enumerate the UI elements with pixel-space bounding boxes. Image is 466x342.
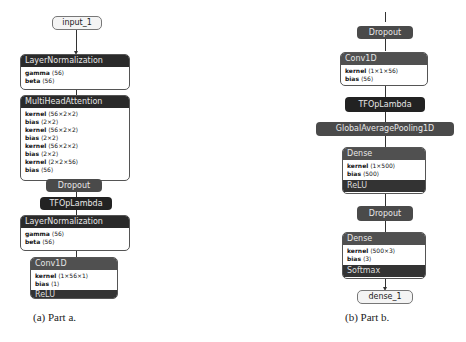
param-row: kernel ⟨56×2×2⟩ [25, 126, 125, 134]
param-row: kernel ⟨1×500⟩ [347, 162, 421, 170]
dense-node-2: Dense kernel ⟨500×3⟩ bias ⟨3⟩ Softmax [342, 232, 426, 279]
dense-node-1: Dense kernel ⟨1×500⟩ bias ⟨500⟩ ReLU [342, 147, 426, 194]
param-row: gamma ⟨56⟩ [25, 69, 125, 77]
layernorm-node-2: LayerNormalization gamma ⟨56⟩ beta ⟨56⟩ [20, 215, 130, 251]
edge [385, 136, 386, 147]
dropout-node-2: Dropout [357, 206, 413, 221]
param-row: kernel ⟨1×56×1⟩ [35, 272, 113, 280]
param-row: kernel ⟨56×2×2⟩ [25, 142, 125, 150]
tfoplambda-node: TFOpLambda [40, 197, 112, 210]
param-row: beta ⟨56⟩ [25, 77, 125, 85]
param-row: bias ⟨2×2⟩ [25, 118, 125, 126]
param-row: bias ⟨56⟩ [25, 166, 125, 174]
param-row: bias ⟨500⟩ [347, 170, 421, 178]
layernorm-node-1: LayerNormalization gamma ⟨56⟩ beta ⟨56⟩ [20, 54, 130, 90]
dropout-node: Dropout [46, 179, 102, 192]
edge [76, 30, 77, 52]
edge [385, 112, 386, 122]
activation-label: ReLU [343, 180, 425, 192]
edge [385, 86, 386, 97]
tfoplambda-node-b: TFOpLambda [345, 97, 425, 112]
input-node: input_1 [52, 16, 102, 30]
multiheadattention-node: MultiHeadAttention kernel ⟨56×2×2⟩ bias … [20, 95, 130, 181]
conv1d-node-b: Conv1D kernel ⟨1×1×56⟩ bias ⟨56⟩ [340, 52, 428, 86]
output-node: dense_1 [357, 290, 413, 304]
param-row: kernel ⟨1×1×56⟩ [345, 67, 423, 75]
param-row: beta ⟨56⟩ [25, 238, 125, 246]
caption-part-a: (a) Part a. [33, 311, 76, 323]
param-row: bias ⟨56⟩ [345, 75, 423, 83]
node-title: Dense [343, 148, 425, 160]
node-title: LayerNormalization [21, 216, 129, 228]
node-title: Dense [343, 233, 425, 245]
caption-part-b: (b) Part b. [345, 311, 389, 323]
param-row: bias ⟨2×2⟩ [25, 134, 125, 142]
edge [385, 39, 386, 51]
conv1d-node-a: Conv1D kernel ⟨1×56×1⟩ bias ⟨1⟩ ReLU [30, 257, 118, 299]
param-row: kernel ⟨500×3⟩ [347, 247, 421, 255]
edge [385, 194, 386, 206]
param-row: bias ⟨3⟩ [347, 255, 421, 263]
edge [385, 12, 386, 22]
param-row: bias ⟨1⟩ [35, 280, 113, 288]
param-row: kernel ⟨2×2×56⟩ [25, 158, 125, 166]
param-row: kernel ⟨56×2×2⟩ [25, 110, 125, 118]
activation-label: ReLU [31, 290, 117, 299]
param-row: gamma ⟨56⟩ [25, 230, 125, 238]
activation-label: Softmax [343, 265, 425, 277]
node-title: MultiHeadAttention [21, 96, 129, 108]
param-row: bias ⟨2×2⟩ [25, 150, 125, 158]
node-title: Conv1D [31, 258, 117, 270]
node-title: LayerNormalization [21, 55, 129, 67]
node-title: Conv1D [341, 53, 427, 65]
globalaveragepooling-node: GlobalAveragePooling1D [316, 122, 454, 136]
edge [385, 221, 386, 232]
dropout-node-1: Dropout [357, 26, 413, 39]
